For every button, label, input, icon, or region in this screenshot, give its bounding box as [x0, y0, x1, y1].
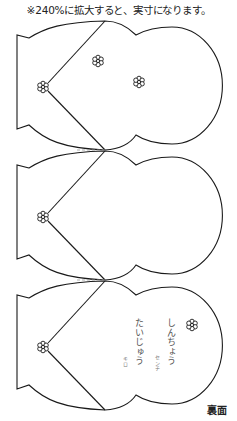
weight-unit: キロ [122, 356, 129, 367]
flower-icon [93, 55, 104, 67]
height-unit: センチ [154, 355, 161, 372]
cutout-pattern [0, 0, 237, 421]
flower-icon [38, 341, 49, 353]
back-side-label: 裏面 [207, 402, 227, 417]
weight-label: たいじゅう [133, 318, 146, 366]
flower-icon [38, 81, 49, 93]
flower-icon [187, 319, 198, 331]
height-label: しんちょう [165, 318, 178, 366]
flower-icon [134, 76, 145, 88]
flower-icon [38, 211, 49, 223]
